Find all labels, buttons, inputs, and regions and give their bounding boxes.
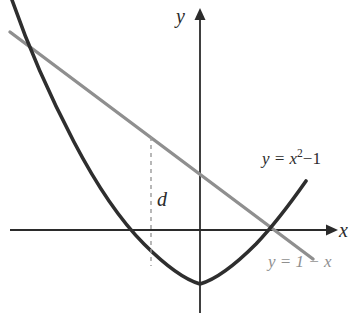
line-y-equals-1-minus-x xyxy=(10,32,313,259)
distance-label-d: d xyxy=(157,189,167,209)
y-axis-label: y xyxy=(176,6,185,26)
line-equation-label: y = 1 − x xyxy=(268,253,332,270)
parabola-equation-tail: −1 xyxy=(303,149,321,168)
y-axis xyxy=(195,8,206,313)
x-axis-label: x xyxy=(339,220,348,240)
x-axis xyxy=(10,225,338,236)
parabola-equation-label: y = x2−1 xyxy=(262,148,321,167)
parabola-equation-base: y = x xyxy=(262,149,297,168)
x-axis-arrow-icon xyxy=(326,225,338,236)
math-figure: y x d y = x2−1 y = 1 − x xyxy=(0,0,361,319)
y-axis-arrow-icon xyxy=(195,8,206,20)
